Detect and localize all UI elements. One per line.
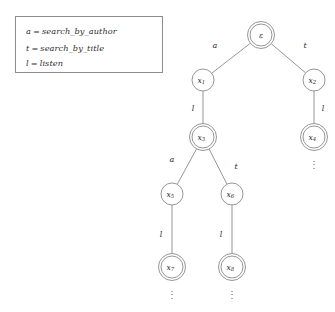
edge-label-x3-x5: a [170, 155, 175, 164]
node-x8[interactable]: x8 [219, 254, 246, 281]
node-x7[interactable]: x7 [159, 254, 186, 281]
node-x5[interactable]: x5 [161, 183, 183, 205]
edge-x3-to-x6 [209, 149, 227, 184]
edge-root-to-x1 [212, 43, 251, 73]
edge-root-to-x2 [271, 44, 305, 73]
ellipsis-below-x8: ⋮ [227, 289, 237, 300]
node-x3[interactable]: x3 [190, 124, 217, 151]
node-x4[interactable]: x4 [301, 124, 328, 151]
edge-label-x1-x3: l [192, 104, 195, 113]
figure-canvas: a=search_by_author t=search_by_title l=l… [0, 0, 335, 312]
ellipsis-below-x7: ⋮ [167, 289, 177, 300]
node-x4-subscript: 4 [312, 136, 317, 142]
edge-label-x2-x4: l [322, 104, 325, 113]
node-x1-subscript: 1 [202, 79, 205, 85]
ellipsis-layer: ⋮⋮⋮ [167, 159, 319, 300]
node-x8-subscript: 8 [231, 266, 235, 272]
edge-label-x3-x6: t [234, 162, 238, 171]
node-x1[interactable]: x1 [192, 69, 214, 91]
edge-x3-to-x5 [177, 149, 196, 184]
ellipsis-below-x4: ⋮ [309, 159, 319, 170]
node-root[interactable]: ε [248, 22, 275, 49]
node-x2[interactable]: x2 [303, 69, 325, 91]
edge-label-x5-x7: l [160, 230, 163, 239]
edge-label-root-x2: t [303, 41, 307, 50]
nodes-layer: εx1x2x3x4x5x6x7x8 [159, 22, 328, 281]
edge-label-root-x1: a [213, 41, 218, 50]
edge-labels-layer: atllatll [160, 41, 325, 239]
node-x3-subscript: 3 [202, 136, 206, 142]
node-x6[interactable]: x6 [221, 183, 243, 205]
edge-label-x6-x8: l [220, 230, 223, 239]
node-x2-subscript: 2 [312, 79, 317, 85]
node-root-label: ε [259, 31, 263, 40]
node-x7-subscript: 7 [171, 266, 175, 272]
node-x5-subscript: 5 [171, 193, 175, 199]
tree-diagram: atllatll εx1x2x3x4x5x6x7x8 ⋮⋮⋮ [0, 0, 335, 312]
node-x6-subscript: 6 [231, 193, 235, 199]
